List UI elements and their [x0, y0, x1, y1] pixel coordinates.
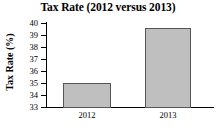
y-tick-mark-33 — [41, 107, 46, 108]
y-tick-mark-37 — [41, 59, 46, 60]
y-tick-label-35: 35 — [18, 79, 38, 88]
y-tick-mark-38 — [41, 47, 46, 48]
y-tick-label-37: 37 — [18, 55, 38, 64]
y-tick-mark-34 — [41, 95, 46, 96]
bar-2013 — [145, 28, 191, 108]
chart-title: Tax Rate (2012 versus 2013) — [0, 1, 216, 13]
chart-container: Tax Rate (2012 versus 2013) Tax Rate (%)… — [0, 0, 216, 130]
x-tick-label-2013: 2013 — [145, 110, 191, 120]
y-tick-label-33: 33 — [18, 103, 38, 112]
bar-2012 — [63, 83, 111, 108]
y-tick-mark-36 — [41, 71, 46, 72]
y-tick-label-39: 39 — [18, 31, 38, 40]
y-tick-mark-35 — [41, 83, 46, 84]
y-tick-mark-39 — [41, 35, 46, 36]
y-axis-title: Tax Rate (%) — [4, 33, 15, 90]
x-tick-label-2012: 2012 — [63, 110, 111, 120]
y-tick-mark-40 — [41, 23, 46, 24]
y-tick-label-38: 38 — [18, 43, 38, 52]
y-axis-title-wrapper: Tax Rate (%) — [2, 18, 16, 106]
y-axis-line — [46, 22, 47, 108]
y-tick-label-36: 36 — [18, 67, 38, 76]
y-tick-label-34: 34 — [18, 91, 38, 100]
y-tick-label-40: 40 — [18, 19, 38, 28]
